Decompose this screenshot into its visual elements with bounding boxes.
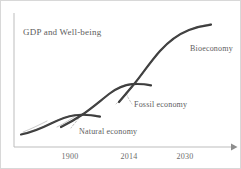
figure-container: GDP and Well-being Bioeconomy Fossil eco… — [0, 0, 241, 169]
annotation-natural-economy-label: Natural economy — [79, 128, 137, 136]
series-bioeconomy — [119, 24, 211, 102]
x-axis-tick-label: 2014 — [120, 153, 137, 161]
x-axis-arrow-icon — [231, 144, 238, 151]
x-axis-tick-label: 1900 — [61, 153, 78, 161]
annotation-bioeconomy-label: Bioeconomy — [190, 45, 233, 53]
y-axis-title-label: GDP and Well-being — [23, 28, 101, 37]
series-bioeconomy-texture — [120, 24, 211, 101]
series-bioeconomy-line — [119, 25, 211, 102]
leader-line-fossil — [126, 93, 132, 104]
annotation-fossil-economy-label: Fossil economy — [134, 101, 187, 109]
x-axis-tick-label: 2030 — [176, 153, 193, 161]
leader-lines-group — [23, 88, 132, 132]
